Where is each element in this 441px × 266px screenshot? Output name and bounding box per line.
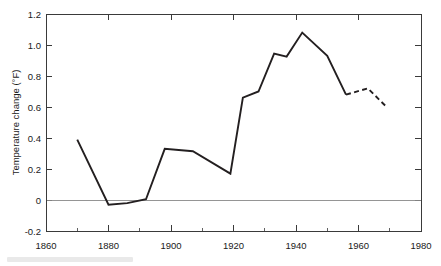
y-tick-label: 1.0 <box>28 40 41 51</box>
x-tick-label: 1940 <box>285 240 306 251</box>
caption-artifact <box>7 257 133 262</box>
temperature-change-line-chart: Temperature change (°F) 1.2 1.0 0.8 0.6 … <box>0 0 441 266</box>
y-tick-label: -0.2 <box>25 226 41 237</box>
y-axis-tick-labels: 1.2 1.0 0.8 0.6 0.4 0.2 0 -0.2 <box>25 9 41 237</box>
y-tick-label: 1.2 <box>28 9 41 20</box>
figure-container: Temperature change (°F) 1.2 1.0 0.8 0.6 … <box>0 0 441 266</box>
x-axis-tick-labels: 1860 1880 1900 1920 1940 1960 1980 <box>35 240 431 251</box>
y-tick-label: 0.8 <box>28 71 41 82</box>
plot-area-background <box>46 14 421 231</box>
y-tick-label: 0.6 <box>28 102 41 113</box>
x-tick-label: 1880 <box>98 240 119 251</box>
x-tick-label: 1920 <box>223 240 244 251</box>
x-tick-label: 1900 <box>160 240 181 251</box>
x-tick-label: 1960 <box>348 240 369 251</box>
y-tick-label: 0 <box>36 195 41 206</box>
y-tick-label: 0.2 <box>28 164 41 175</box>
x-tick-label: 1860 <box>35 240 56 251</box>
y-tick-label: 0.4 <box>28 133 41 144</box>
y-axis-title: Temperature change (°F) <box>10 70 21 176</box>
x-tick-label: 1980 <box>410 240 431 251</box>
